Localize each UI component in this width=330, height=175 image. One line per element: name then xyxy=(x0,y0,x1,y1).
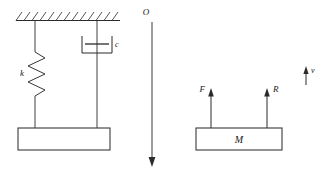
force-F-arrow-head xyxy=(208,88,214,97)
force-arrow-F: F xyxy=(199,84,214,128)
velocity-arrow-head xyxy=(303,66,308,74)
vertical-displacement-axis: O xyxy=(143,7,156,167)
force-F-label: F xyxy=(199,84,206,94)
force-arrow-R: R xyxy=(264,84,279,128)
spring-stiffness-label: k xyxy=(20,68,25,78)
velocity-label: v xyxy=(311,66,315,75)
force-R-arrow-head xyxy=(264,88,270,97)
spring-mass-damper-system xyxy=(16,12,120,150)
damping-coefficient-label: c xyxy=(115,40,119,49)
spring-element xyxy=(28,21,45,129)
fbd-mass-label: M xyxy=(234,134,244,145)
fixed-support-hatching xyxy=(16,12,120,21)
damper-element xyxy=(82,21,112,129)
axis-origin-label: O xyxy=(143,7,150,17)
free-body-diagram: M F R v xyxy=(196,66,315,150)
axis-arrow-head xyxy=(149,157,156,167)
figure-root: O M F R v xyxy=(0,0,330,175)
force-R-label: R xyxy=(272,84,279,94)
velocity-arrow-v: v xyxy=(303,66,315,85)
left-mass-block xyxy=(18,128,110,150)
mechanics-diagram: O M F R v xyxy=(0,0,330,175)
